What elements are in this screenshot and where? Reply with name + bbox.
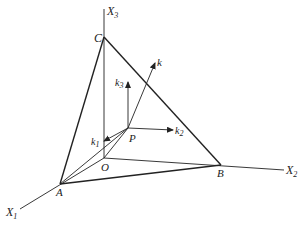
label-p: P bbox=[128, 132, 136, 144]
label-b: B bbox=[217, 167, 224, 179]
edge-ab bbox=[60, 165, 221, 184]
label-k: k bbox=[157, 56, 163, 68]
label-k1: k1 bbox=[91, 136, 99, 149]
line-op bbox=[104, 128, 128, 158]
label-k3: k3 bbox=[115, 77, 123, 90]
label-x1: X1 bbox=[5, 205, 17, 221]
label-x2: X2 bbox=[285, 163, 297, 179]
label-a: A bbox=[55, 186, 63, 198]
diagram-canvas: X3 X1 X2 C O A B P k k3 k2 k1 bbox=[0, 0, 304, 226]
label-k2: k2 bbox=[175, 125, 183, 138]
vector-k bbox=[128, 63, 155, 128]
vector-k1 bbox=[104, 128, 128, 141]
label-x3: X3 bbox=[106, 4, 118, 20]
label-c: C bbox=[94, 31, 103, 45]
vector-k2 bbox=[128, 128, 173, 130]
label-o: O bbox=[101, 161, 109, 173]
diagram-svg: X3 X1 X2 C O A B P k k3 k2 k1 bbox=[0, 0, 304, 226]
edge-cb bbox=[104, 37, 221, 165]
